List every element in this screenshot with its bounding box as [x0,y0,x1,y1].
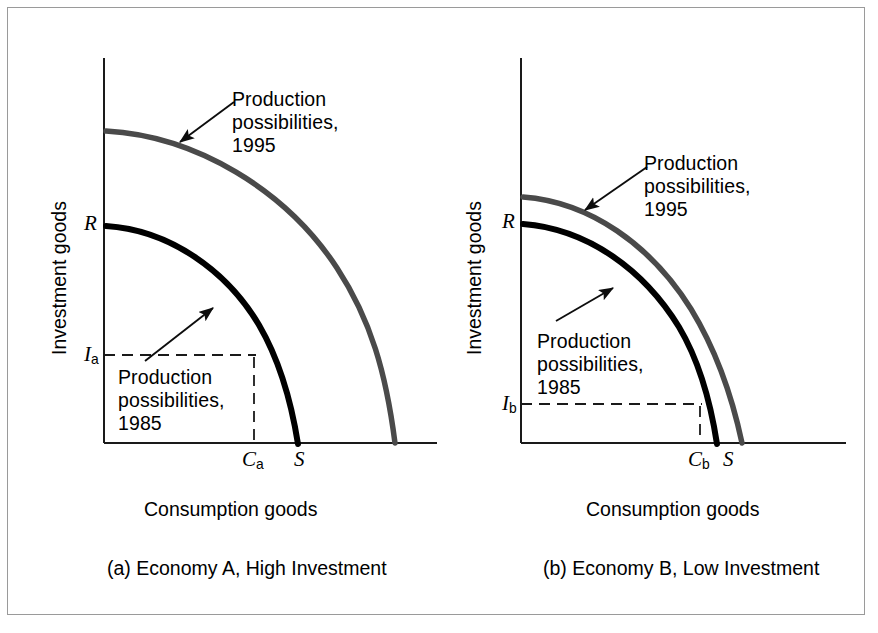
panel-a-label-Ca-sub: a [256,456,264,472]
panel-b: Production possibilities, 1995 Productio… [418,0,878,633]
panel-b-label-S: S [723,447,734,472]
panel-a: Production possibilities, 1995 Productio… [0,0,460,633]
panel-b-label-Cb-sub: b [702,456,710,472]
panel-b-label-Ib-main: I [502,391,509,415]
panel-b-label-Cb: Cb [688,447,710,473]
panel-a-label-S: S [294,447,305,472]
panel-a-label-Ia-sub: a [91,351,99,367]
panel-b-label-Ib: Ib [502,391,517,417]
panel-b-caption: (b) Economy B, Low Investment [543,557,819,580]
panel-b-label-Cb-main: C [688,447,702,471]
figure-root: Production possibilities, 1995 Productio… [0,0,878,633]
panel-a-label-Ia: Ia [84,342,99,368]
panel-a-label-R: R [84,211,97,236]
panel-b-annotation-1985: Production possibilities, 1985 [537,330,644,399]
panel-a-label-Ia-main: I [84,342,91,366]
panel-a-y-axis-title: Investment goods [48,201,71,355]
panel-a-label-Ca: Ca [242,447,264,473]
panel-a-label-Ca-main: C [242,447,256,471]
panel-b-label-Ib-sub: b [509,400,517,416]
panel-b-annotation-1995: Production possibilities, 1995 [644,152,751,221]
panel-a-x-axis-title: Consumption goods [144,498,317,521]
panel-b-y-axis-title: Investment goods [463,201,486,355]
panel-a-annotation-1985: Production possibilities, 1985 [118,366,225,435]
panel-b-x-axis-title: Consumption goods [586,498,759,521]
panel-a-annotation-1995: Production possibilities, 1995 [232,88,339,157]
panel-a-caption: (a) Economy A, High Investment [107,557,387,580]
panel-b-label-R: R [502,209,515,234]
